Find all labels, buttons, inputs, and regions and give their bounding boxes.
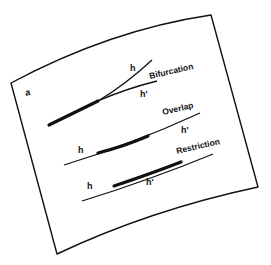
- sheet-outline: [11, 15, 258, 254]
- restriction-h-label: h: [87, 181, 93, 191]
- bifurcation-h-label: h: [130, 63, 136, 73]
- diagram: a h h' Bifurcation h h' Overlap h h' Res…: [0, 0, 271, 265]
- bifurcation-h-prime-label: h': [140, 89, 148, 99]
- restriction-h-prime-label: h': [146, 177, 154, 187]
- overlap-h-prime-label: h': [181, 125, 189, 135]
- overlap-h-label: h: [78, 145, 84, 155]
